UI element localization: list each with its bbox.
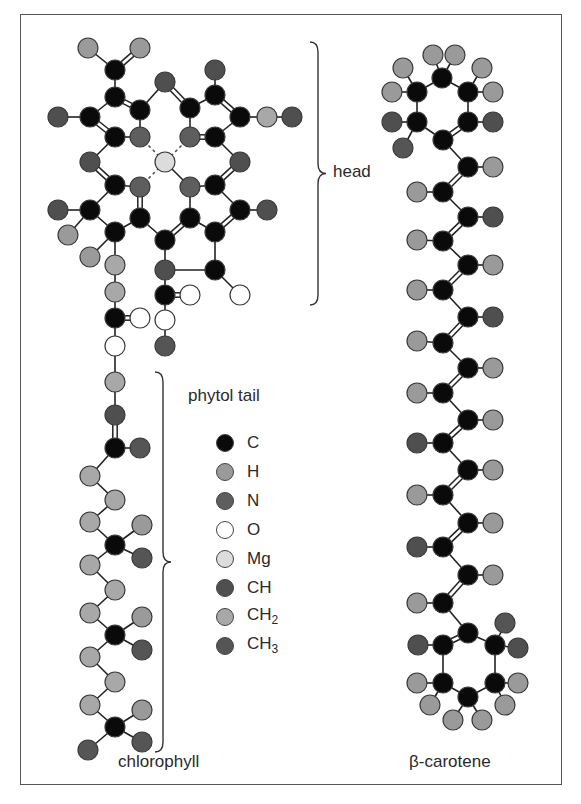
legend-item-o: O: [216, 515, 278, 544]
chlorophyll-atom-ch: [48, 200, 68, 220]
beta-carotene-atom-c: [458, 207, 478, 227]
head-label: head: [333, 162, 371, 182]
chlorophyll-atom-ch3: [132, 640, 152, 660]
beta-carotene-atom-h: [407, 485, 427, 505]
beta-carotene-atom-c: [458, 157, 478, 177]
chlorophyll-atom-c: [105, 717, 125, 737]
beta-carotene-atom-h: [508, 673, 528, 693]
beta-carotene-atom-c: [433, 333, 453, 353]
beta-carotene-atom-ch: [407, 537, 427, 557]
beta-carotene-atom-c: [458, 82, 478, 102]
chlorophyll-atom-c: [105, 175, 125, 195]
chlorophyll-atom-c: [205, 127, 225, 147]
beta-carotene-atom-c: [485, 635, 505, 655]
chlorophyll-atom-c: [105, 308, 125, 328]
chlorophyll-atom-c: [155, 230, 175, 250]
beta-carotene-atom-h: [407, 331, 427, 351]
chlorophyll-atom-ch2: [105, 490, 125, 510]
beta-carotene-atom-c: [407, 82, 427, 102]
chlorophyll-atom-c: [105, 222, 125, 242]
chlorophyll-atom-ch: [105, 405, 125, 425]
beta-carotene-atom-c: [458, 358, 478, 378]
beta-carotene-atom-ch3: [495, 613, 515, 633]
beta-carotene-atom-h: [407, 383, 427, 403]
ch-swatch-icon: [216, 579, 234, 597]
beta-carotene-atom-c: [458, 112, 478, 132]
legend-item-n: N: [216, 486, 278, 515]
beta-carotene-atom-c: [485, 673, 505, 693]
beta-carotene-atom-c: [433, 231, 453, 251]
chlorophyll-atom-ch2: [105, 282, 125, 302]
chlorophyll-atom-c: [180, 208, 200, 228]
chlorophyll-atom-c: [80, 200, 100, 220]
chlorophyll-atom-c: [205, 85, 225, 105]
beta-carotene-atom-c: [458, 410, 478, 430]
legend-item-ch3: CH3: [216, 631, 278, 660]
phytol-tail-label: phytol tail: [188, 386, 260, 406]
beta-carotene-atom-c: [432, 68, 452, 88]
beta-carotene-atom-h: [393, 58, 413, 78]
beta-carotene-atom-h: [483, 358, 503, 378]
beta-carotene-atom-ch: [483, 112, 503, 132]
chlorophyll-atom-c: [130, 100, 150, 120]
chlorophyll-atom-ch: [282, 107, 302, 127]
chlorophyll-atom-ch: [155, 72, 175, 92]
legend-label: Mg: [247, 549, 271, 569]
beta-carotene-atom-h: [382, 82, 402, 102]
legend-label: CH3: [247, 634, 278, 656]
beta-carotene-atom-h: [495, 695, 515, 715]
chlorophyll-atom-n: [180, 177, 200, 197]
chlorophyll-atom-ch: [230, 152, 250, 172]
chlorophyll-atom-ch: [257, 200, 277, 220]
chlorophyll-atom-c: [105, 535, 125, 555]
beta-carotene-atoms: [382, 45, 528, 730]
beta-carotene-atom-h: [483, 82, 503, 102]
chlorophyll-atom-ch2: [80, 555, 100, 575]
beta-carotene-atom-h: [407, 182, 427, 202]
chlorophyll-atom-h: [132, 607, 152, 627]
beta-carotene-atom-c: [433, 485, 453, 505]
chlorophyll-atom-n: [130, 177, 150, 197]
chlorophyll-atom-ch: [48, 107, 68, 127]
chlorophyll-atom-c: [205, 175, 225, 195]
chlorophyll-atom-o: [155, 310, 175, 330]
beta-carotene-atom-h: [407, 593, 427, 613]
chlorophyll-atom-c: [105, 127, 125, 147]
chlorophyll-atom-h: [80, 247, 100, 267]
beta-carotene-atom-c: [433, 593, 453, 613]
chlorophyll-atom-c: [105, 438, 125, 458]
beta-carotene-atom-c: [458, 623, 478, 643]
beta-carotene-atom-h: [483, 565, 503, 585]
chlorophyll-atom-n: [130, 127, 150, 147]
beta-carotene-atom-h: [423, 45, 443, 65]
nitrogen-swatch-icon: [216, 492, 234, 510]
legend-item-ch2: CH2: [216, 602, 278, 631]
ch3-swatch-icon: [216, 637, 234, 655]
legend-item-mg: Mg: [216, 544, 278, 573]
chlorophyll-atom-ch2: [105, 580, 125, 600]
beta-carotene-atom-c: [458, 460, 478, 480]
legend: C H N O Mg CH CH2 CH3: [216, 428, 278, 660]
chlorophyll-atom-ch: [80, 152, 100, 172]
beta-carotene-atom-c: [433, 433, 453, 453]
chlorophyll-atom-ch2: [105, 255, 125, 275]
beta-carotene-atom-ch: [407, 433, 427, 453]
chlorophyll-atom-c: [105, 60, 125, 80]
chlorophyll-atom-c: [230, 107, 250, 127]
beta-carotene-atom-h: [407, 673, 427, 693]
beta-carotene-label: β-carotene: [409, 752, 491, 772]
chlorophyll-atom-ch2: [105, 672, 125, 692]
legend-label: CH: [247, 578, 272, 598]
chlorophyll-atom-ch2: [105, 372, 125, 392]
chlorophyll-atom-o: [105, 336, 125, 356]
chlorophyll-atom-ch3: [155, 336, 175, 356]
beta-carotene-atom-h: [472, 710, 492, 730]
beta-carotene-atom-c: [458, 255, 478, 275]
chlorophyll-atom-ch: [205, 60, 225, 80]
chlorophyll-atom-c: [180, 98, 200, 118]
chlorophyll-atom-h: [78, 38, 98, 58]
chlorophyll-atom-ch2: [80, 466, 100, 486]
chlorophyll-atom-h: [132, 700, 152, 720]
beta-carotene-atom-ch: [382, 112, 402, 132]
beta-carotene-atom-ch: [408, 635, 428, 655]
